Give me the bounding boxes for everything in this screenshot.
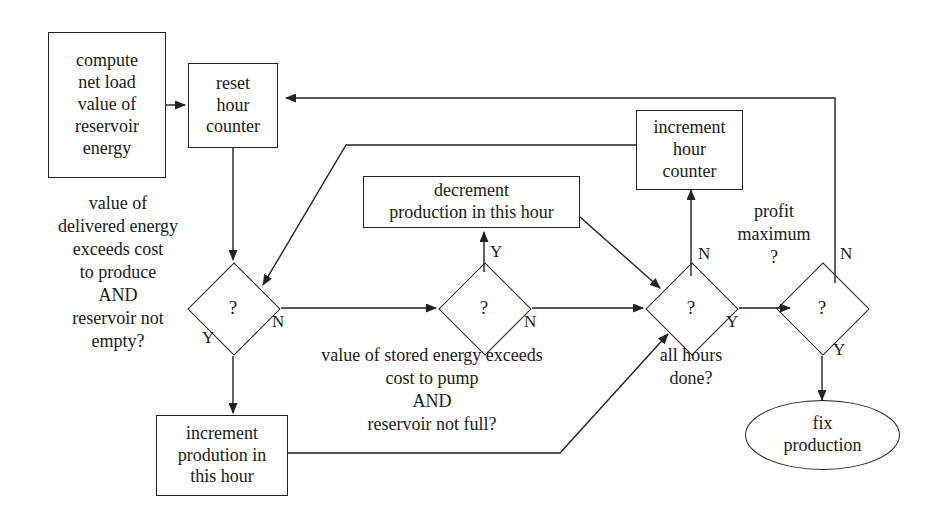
edge-label-all-hours-no: N (698, 245, 710, 262)
node-increment-production-label: incrementprodution inthis hour (174, 423, 271, 489)
annotation-all-hours-condition: all hoursdone? (633, 344, 749, 390)
node-reset-hour-counter[interactable]: resethourcounter (188, 63, 278, 148)
edge-label-profit-no: N (840, 245, 852, 262)
annotation-profit-condition: profitmaximum? (716, 200, 832, 269)
node-decision-delivered-label: ? (229, 296, 237, 319)
node-decision-profit-label: ? (818, 296, 826, 319)
annotation-delivered-condition: value ofdelivered energyexceeds costto p… (48, 192, 188, 353)
node-compute-net-load-label: computenet loadvalue ofreservoirenergy (71, 50, 143, 160)
node-increment-production[interactable]: incrementprodution inthis hour (156, 415, 288, 496)
node-decision-all-hours[interactable]: ? (644, 261, 738, 355)
node-decision-profit[interactable]: ? (775, 261, 869, 355)
annotation-stored-condition: value of stored energy exceedscost to pu… (282, 344, 582, 436)
flowchart-canvas: computenet loadvalue ofreservoirenergy r… (0, 0, 939, 520)
edge-label-stored-no: N (524, 313, 536, 330)
edge-label-stored-yes: Y (490, 243, 502, 260)
edge-label-delivered-no: N (272, 313, 284, 330)
edge-label-profit-yes: Y (833, 341, 845, 358)
node-increment-hour-counter-label: incrementhourcounter (650, 117, 730, 183)
node-decrement-production[interactable]: decrementproduction in this hour (363, 176, 580, 228)
node-decision-all-hours-label: ? (687, 296, 695, 319)
node-increment-hour-counter[interactable]: incrementhourcounter (636, 110, 743, 190)
node-decision-delivered[interactable]: ? (186, 261, 280, 355)
node-fix-production[interactable]: fixproduction (745, 400, 900, 470)
edge-label-delivered-yes: Y (202, 329, 214, 346)
node-decision-stored[interactable]: ? (437, 261, 531, 355)
edge-label-all-hours-yes: Y (726, 313, 738, 330)
node-fix-production-label: fixproduction (784, 413, 862, 457)
node-decrement-production-label: decrementproduction in this hour (385, 180, 558, 224)
node-decision-stored-label: ? (480, 296, 488, 319)
node-compute-net-load[interactable]: computenet loadvalue ofreservoirenergy (48, 32, 166, 178)
node-reset-hour-counter-label: resethourcounter (202, 73, 264, 139)
